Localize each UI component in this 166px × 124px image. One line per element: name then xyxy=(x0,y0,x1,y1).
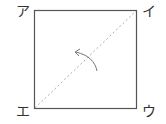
corner-label-i: イ xyxy=(142,4,156,18)
paper-square xyxy=(35,11,137,109)
corner-label-a: ア xyxy=(16,4,30,18)
corner-label-u: ウ xyxy=(142,104,156,118)
corner-label-e: エ xyxy=(16,104,30,118)
